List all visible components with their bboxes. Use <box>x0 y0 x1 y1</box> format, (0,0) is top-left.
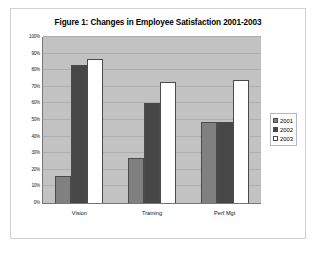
bar-2003[interactable] <box>233 80 249 203</box>
plot-area-wrapper: 100%90%80%70%60%50%40%30%20%10%0% Vision… <box>42 37 261 204</box>
legend-swatch-icon <box>273 136 278 141</box>
y-axis-tick-label: 40% <box>31 133 40 138</box>
y-axis-tick-label: 60% <box>31 100 40 105</box>
bar-2002[interactable] <box>144 103 160 203</box>
y-axis-tick-label: 90% <box>31 50 40 55</box>
chart-title: Figure 1: Changes in Employee Satisfacti… <box>11 18 305 27</box>
legend-label: 2002 <box>280 127 293 133</box>
bar-2001[interactable] <box>201 122 217 203</box>
bar-2003[interactable] <box>87 59 103 203</box>
bar-2001[interactable] <box>128 158 144 203</box>
y-axis-tick-label: 20% <box>31 166 40 171</box>
y-axis-tick-label: 0% <box>34 200 40 205</box>
y-axis-tick-label: 50% <box>31 117 40 122</box>
y-axis-tick-label: 100% <box>29 34 40 39</box>
x-axis-category-label: Vision <box>43 210 116 216</box>
legend-item-2003[interactable]: 2003 <box>273 134 293 143</box>
legend-label: 2001 <box>280 118 293 124</box>
y-axis-tick-label: 30% <box>31 150 40 155</box>
bar-2001[interactable] <box>55 176 71 203</box>
legend-rows: 200120022003 <box>273 116 293 143</box>
legend: 200120022003 <box>270 113 297 146</box>
bar-group: Training <box>116 37 189 203</box>
legend-swatch-icon <box>273 127 278 132</box>
x-axis-category-label: Training <box>116 210 189 216</box>
legend-swatch-icon <box>273 118 278 123</box>
figure-frame: Figure 1: Changes in Employee Satisfacti… <box>10 8 306 239</box>
bar-groups: VisionTrainingPerf Mgt <box>43 37 261 203</box>
y-axis-tick-label: 80% <box>31 67 40 72</box>
plot-area: 100%90%80%70%60%50%40%30%20%10%0% Vision… <box>42 37 261 204</box>
x-axis-category-label: Perf Mgt <box>188 210 261 216</box>
legend-item-2002[interactable]: 2002 <box>273 125 293 134</box>
y-axis-tick-label: 10% <box>31 183 40 188</box>
bar-2002[interactable] <box>217 122 233 203</box>
bar-group: Vision <box>43 37 116 203</box>
bar-2002[interactable] <box>71 65 87 203</box>
bar-group: Perf Mgt <box>188 37 261 203</box>
y-axis-tick-label: 70% <box>31 83 40 88</box>
bar-2003[interactable] <box>160 82 176 203</box>
legend-label: 2003 <box>280 136 293 142</box>
legend-item-2001[interactable]: 2001 <box>273 116 293 125</box>
